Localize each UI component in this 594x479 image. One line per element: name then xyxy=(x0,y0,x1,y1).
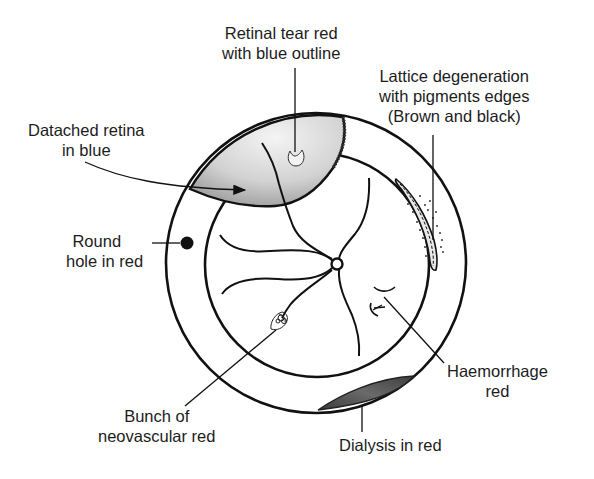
detached-retina-region xyxy=(190,115,345,206)
label-neovascular: Bunch of neovascular red xyxy=(98,406,215,446)
label-detached-retina-line1: Datached retina xyxy=(28,120,145,140)
round-hole-icon xyxy=(181,237,194,250)
label-lattice-line3: (Brown and black) xyxy=(379,106,529,126)
label-retinal-tear: Retinal tear red with blue outline xyxy=(222,23,340,63)
label-haemorrhage-line2: red xyxy=(447,381,548,401)
optic-disc xyxy=(332,259,343,270)
label-haemorrhage: Haemorrhage red xyxy=(447,361,548,401)
label-round-hole: Round hole in red xyxy=(66,231,143,271)
label-lattice-line2: with pigments edges xyxy=(379,86,529,106)
label-dialysis: Dialysis in red xyxy=(339,435,442,455)
label-retinal-tear-line1: Retinal tear red xyxy=(222,23,340,43)
label-detached-retina: Datached retina in blue xyxy=(28,120,145,160)
label-round-hole-line1: Round xyxy=(66,231,143,251)
label-lattice: Lattice degeneration with pigments edges… xyxy=(379,66,529,126)
label-lattice-line1: Lattice degeneration xyxy=(379,66,529,86)
label-detached-retina-line2: in blue xyxy=(28,140,145,160)
haemorrhage-icon xyxy=(370,287,395,316)
label-haemorrhage-line1: Haemorrhage xyxy=(447,361,548,381)
label-neovascular-line2: neovascular red xyxy=(98,426,215,446)
label-round-hole-line2: hole in red xyxy=(66,251,143,271)
neovascular-bunch-icon xyxy=(271,312,288,330)
label-retinal-tear-line2: with blue outline xyxy=(222,43,340,63)
label-dialysis-line1: Dialysis in red xyxy=(339,435,442,455)
label-neovascular-line1: Bunch of xyxy=(98,406,215,426)
